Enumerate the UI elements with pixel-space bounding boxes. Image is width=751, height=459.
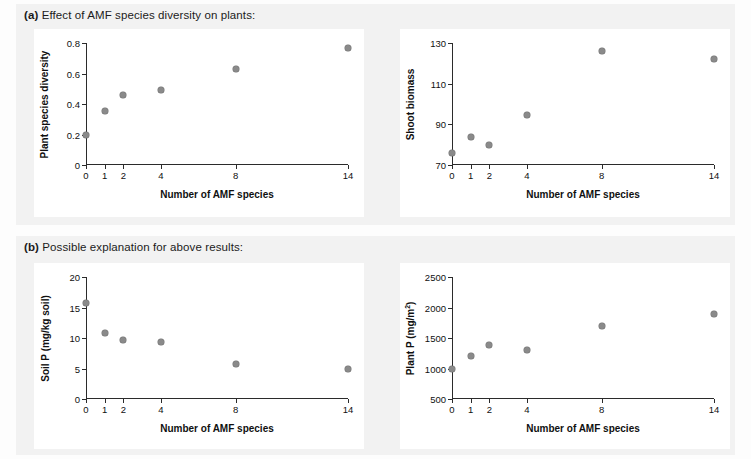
x-tick — [489, 399, 490, 403]
panel-a-caption-text: Effect of AMF species diversity on plant… — [42, 9, 256, 21]
data-point — [486, 342, 492, 348]
chart-4-xlabel: Number of AMF species — [452, 423, 714, 434]
chart-1-xlabel: Number of AMF species — [86, 189, 348, 200]
x-tick-label: 2 — [487, 170, 492, 181]
data-point — [102, 330, 108, 336]
y-tick-label: 0 — [75, 160, 80, 171]
data-point — [468, 353, 474, 359]
chart-2-ylabel-wrap: Shoot biomass — [404, 43, 418, 165]
y-tick — [82, 308, 86, 309]
chart-3-ylabel-wrap: Soil P (mg/kg soil) — [38, 277, 52, 399]
chart-4-ylabel-wrap: Plant P (mg/m2) — [404, 277, 418, 399]
y-tick-label: 20 — [69, 272, 80, 283]
x-tick-label: 1 — [468, 170, 473, 181]
y-tick — [82, 338, 86, 339]
x-tick-label: 1 — [102, 404, 107, 415]
y-tick-label: 1000 — [425, 363, 446, 374]
chart-2-xlabel: Number of AMF species — [452, 189, 714, 200]
data-point — [599, 323, 605, 329]
x-tick-label: 8 — [233, 170, 238, 181]
data-point — [599, 48, 605, 54]
x-tick-label: 2 — [487, 404, 492, 415]
panel-a-tag: (a) — [24, 9, 38, 21]
x-tick — [602, 165, 603, 169]
y-tick-label: 0.6 — [67, 68, 80, 79]
x-tick-label: 8 — [233, 404, 238, 415]
chart-1-plot-area: 00.20.40.60.80124814 — [86, 43, 348, 165]
chart-3-xlabel: Number of AMF species — [86, 423, 348, 434]
y-tick-label: 90 — [435, 119, 446, 130]
x-tick-label: 14 — [343, 404, 354, 415]
y-tick-label: 500 — [430, 394, 446, 405]
data-point — [711, 311, 717, 317]
x-tick — [527, 399, 528, 403]
y-tick-label: 0.4 — [67, 99, 80, 110]
data-point — [524, 112, 530, 118]
data-point — [449, 366, 455, 372]
x-tick-label: 14 — [709, 404, 720, 415]
chart-1-ylabel: Plant species diversity — [40, 50, 51, 158]
data-point — [120, 92, 126, 98]
panel-a-caption: (a) Effect of AMF species diversity on p… — [24, 9, 255, 21]
x-tick-label: 4 — [158, 404, 163, 415]
panel-b-caption-text: Possible explanation for above results: — [42, 241, 243, 253]
x-tick — [236, 165, 237, 169]
data-point — [524, 347, 530, 353]
data-point — [83, 132, 89, 138]
data-point — [102, 108, 108, 114]
y-tick-label: 15 — [69, 302, 80, 313]
x-tick-label: 1 — [102, 170, 107, 181]
panel-b-tag: (b) — [24, 241, 39, 253]
x-tick-label: 8 — [599, 170, 604, 181]
chart-2-plot-area: 70901101300124814 — [452, 43, 714, 165]
y-tick-label: 130 — [430, 38, 446, 49]
x-tick — [86, 165, 87, 169]
chart-1-x-axis — [86, 164, 348, 165]
chart-4-plot-area: 50010001500200025000124814 — [452, 277, 714, 399]
chart-3-ylabel: Soil P (mg/kg soil) — [40, 295, 51, 382]
x-tick-label: 4 — [524, 170, 529, 181]
y-tick — [82, 104, 86, 105]
x-tick-label: 1 — [468, 404, 473, 415]
x-tick — [348, 165, 349, 169]
y-tick-label: 0.8 — [67, 38, 80, 49]
chart-4-y-axis — [452, 277, 453, 399]
x-tick — [123, 399, 124, 403]
panel-b: (b) Possible explanation for above resul… — [16, 236, 735, 455]
x-tick-label: 14 — [343, 170, 354, 181]
y-tick — [448, 308, 452, 309]
x-tick-label: 14 — [709, 170, 720, 181]
x-tick — [105, 399, 106, 403]
x-tick-label: 0 — [449, 170, 454, 181]
chart-4-ylabel: Plant P (mg/m2) — [406, 301, 417, 375]
y-tick — [82, 74, 86, 75]
chart-3-y-axis — [86, 277, 87, 399]
data-point — [449, 150, 455, 156]
chart-4-x-axis — [452, 398, 714, 399]
y-tick — [82, 369, 86, 370]
x-tick — [471, 399, 472, 403]
x-tick-label: 2 — [121, 170, 126, 181]
chart-shoot-biomass: Shoot biomass 70901101300124814 Number o… — [400, 29, 730, 217]
y-tick-label: 110 — [431, 78, 446, 89]
chart-2-x-axis — [452, 164, 714, 165]
y-tick — [448, 43, 452, 44]
figure-amf-species-diversity: (a) Effect of AMF species diversity on p… — [0, 0, 751, 459]
chart-plant-p: Plant P (mg/m2) 500100015002000250001248… — [400, 263, 730, 449]
x-tick-label: 4 — [158, 170, 163, 181]
x-tick — [489, 165, 490, 169]
chart-soil-p: Soil P (mg/kg soil) 051015200124814 Numb… — [34, 263, 364, 449]
x-tick — [527, 165, 528, 169]
data-point — [83, 300, 89, 306]
y-tick — [82, 277, 86, 278]
x-tick — [105, 165, 106, 169]
x-tick — [714, 165, 715, 169]
data-point — [345, 45, 351, 51]
x-tick-label: 8 — [599, 404, 604, 415]
data-point — [468, 134, 474, 140]
x-tick — [348, 399, 349, 403]
y-tick — [448, 84, 452, 85]
x-tick — [471, 165, 472, 169]
x-tick-label: 0 — [449, 404, 454, 415]
chart-3-plot-area: 051015200124814 — [86, 277, 348, 399]
